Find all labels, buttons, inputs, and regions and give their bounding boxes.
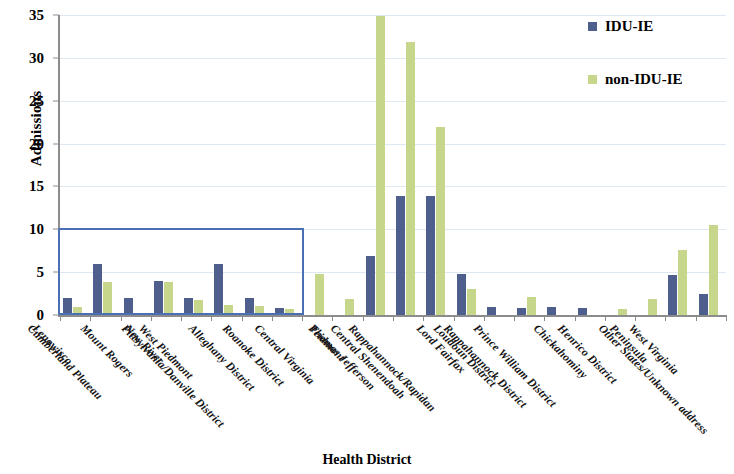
y-tick-mark <box>53 15 59 16</box>
bar-non-idu-ie <box>527 297 536 315</box>
x-tick-mark <box>242 315 243 321</box>
bar-idu-ie <box>547 307 556 315</box>
bar-non-idu-ie <box>709 225 718 315</box>
y-tick-label: 25 <box>4 93 44 108</box>
bar-non-idu-ie <box>436 127 445 315</box>
y-tick-label: 0 <box>4 308 44 323</box>
bar-group <box>544 15 574 315</box>
x-tick-mark <box>544 315 545 321</box>
x-tick-mark <box>726 315 727 321</box>
legend-item-idu-ie: IDU-IE <box>588 18 683 35</box>
legend-swatch-non-idu-ie <box>588 75 597 84</box>
y-tick-mark <box>53 272 59 273</box>
x-tick-mark <box>302 315 303 321</box>
y-tick-label: 5 <box>4 265 44 280</box>
x-tick-label: Alleghany District <box>186 322 257 393</box>
bar-non-idu-ie <box>648 299 657 315</box>
legend-label-idu-ie: IDU-IE <box>605 18 653 35</box>
y-tick-label: 30 <box>4 50 44 65</box>
legend-item-non-idu-ie: non-IDU-IE <box>588 71 683 88</box>
bar-idu-ie <box>457 274 466 315</box>
bar-idu-ie <box>699 294 708 315</box>
x-tick-mark <box>665 315 666 321</box>
bar-idu-ie <box>668 275 677 315</box>
bar-idu-ie <box>396 196 405 315</box>
x-tick-mark <box>605 315 606 321</box>
x-tick-mark <box>211 315 212 321</box>
legend-label-non-idu-ie: non-IDU-IE <box>605 71 683 88</box>
x-tick-mark <box>60 315 61 321</box>
bar-group <box>484 15 514 315</box>
bar-non-idu-ie <box>467 289 476 315</box>
bar-non-idu-ie <box>618 309 627 315</box>
chart-legend: IDU-IE non-IDU-IE <box>588 18 683 124</box>
bar-non-idu-ie <box>315 274 324 315</box>
bar-idu-ie <box>426 196 435 315</box>
bar-idu-ie <box>578 308 587 315</box>
x-tick-mark <box>121 315 122 321</box>
y-tick-mark <box>53 143 59 144</box>
x-tick-mark <box>423 315 424 321</box>
y-tick-label: 20 <box>4 136 44 151</box>
bar-group <box>514 15 544 315</box>
x-tick-mark <box>393 315 394 321</box>
x-tick-mark <box>90 315 91 321</box>
y-tick-label: 15 <box>4 179 44 194</box>
y-tick-mark <box>53 57 59 58</box>
y-tick-mark <box>53 186 59 187</box>
y-tick-mark <box>53 315 59 316</box>
legend-swatch-idu-ie <box>588 22 597 31</box>
bar-group <box>393 15 423 315</box>
x-tick-mark <box>514 315 515 321</box>
x-tick-mark <box>181 315 182 321</box>
highlight-box-annotation <box>58 228 304 315</box>
bar-group <box>454 15 484 315</box>
bar-idu-ie <box>366 256 375 315</box>
bar-chart: Admissions 05101520253035 LenowiscoCumbe… <box>0 0 734 474</box>
x-tick-mark <box>151 315 152 321</box>
x-tick-mark <box>272 315 273 321</box>
bar-idu-ie <box>517 308 526 315</box>
bar-non-idu-ie <box>406 42 415 315</box>
bar-group <box>696 15 726 315</box>
bar-group <box>363 15 393 315</box>
y-tick-label: 10 <box>4 222 44 237</box>
x-tick-mark <box>575 315 576 321</box>
x-tick-mark <box>696 315 697 321</box>
bar-non-idu-ie <box>678 250 687 315</box>
bar-group <box>332 15 362 315</box>
y-tick-mark <box>53 100 59 101</box>
x-tick-mark <box>454 315 455 321</box>
x-tick-mark <box>363 315 364 321</box>
bar-idu-ie <box>487 307 496 315</box>
x-tick-mark <box>484 315 485 321</box>
y-axis-ticks: 05101520253035 <box>8 0 44 474</box>
x-axis-title: Health District <box>0 452 734 468</box>
bar-non-idu-ie <box>345 299 354 315</box>
x-tick-mark <box>332 315 333 321</box>
bar-non-idu-ie <box>376 16 385 315</box>
x-tick-mark <box>635 315 636 321</box>
x-axis-line <box>58 315 726 317</box>
bar-group <box>423 15 453 315</box>
y-tick-mark <box>53 229 59 230</box>
bar-group <box>302 15 332 315</box>
y-tick-label: 35 <box>4 8 44 23</box>
